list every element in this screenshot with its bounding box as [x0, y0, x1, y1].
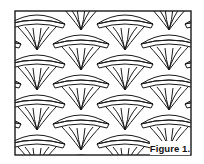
figure-label: Figure 1. — [150, 143, 191, 154]
tessellation — [0, 0, 204, 164]
figure-caption: Figure 1. — [150, 141, 190, 155]
pattern-figure — [0, 0, 204, 164]
